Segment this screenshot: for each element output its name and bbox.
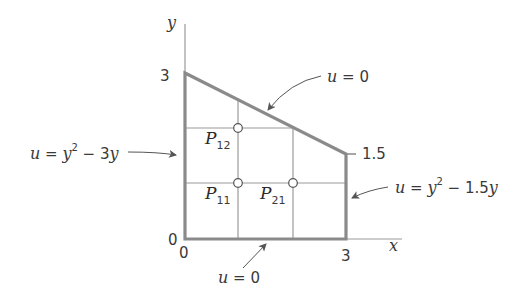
finite-difference-diagram: y x 3 0 0 3 1.5 P12 P11 P21 u = 0 u = y2… — [0, 0, 525, 302]
y-tick-1-5: 1.5 — [362, 145, 386, 163]
x-tick-0: 0 — [179, 244, 189, 262]
right-arrow — [352, 187, 388, 198]
bottom-arrow — [243, 244, 266, 268]
top-arrow — [268, 76, 321, 110]
x-axis-label: x — [389, 236, 398, 255]
right-boundary-label: u = y2 − 1.5y — [395, 176, 499, 197]
top-boundary-label: u = 0 — [327, 67, 369, 86]
y-tick-0: 0 — [168, 231, 178, 249]
region-boundary — [185, 73, 346, 239]
point-p11 — [234, 179, 243, 188]
left-arrow — [128, 152, 176, 155]
x-tick-3: 3 — [341, 247, 351, 265]
bottom-boundary-label: u = 0 — [218, 268, 260, 287]
grid-lines — [185, 100, 346, 239]
y-tick-3: 3 — [160, 67, 170, 85]
label-p21: P21 — [259, 183, 285, 207]
point-p12 — [234, 124, 243, 133]
label-p11: P11 — [204, 183, 230, 207]
left-boundary-label: u = y2 − 3y — [30, 142, 120, 163]
point-p21 — [289, 179, 298, 188]
y-axis-label: y — [166, 13, 177, 32]
label-p12: P12 — [204, 128, 230, 152]
